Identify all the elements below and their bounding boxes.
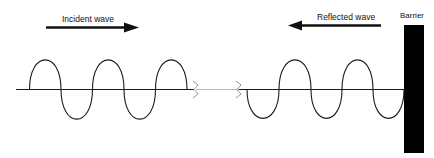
reflected-arrow-icon	[288, 21, 381, 31]
incident-arrow-icon	[46, 23, 139, 33]
wave-diagram	[0, 0, 434, 158]
barrier-block	[404, 25, 424, 153]
